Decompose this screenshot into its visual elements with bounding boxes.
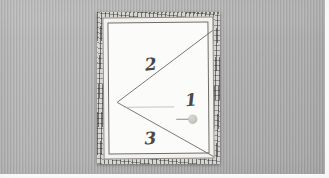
diagonal-line-lower (117, 102, 213, 158)
tack-marker (188, 115, 197, 124)
photograph: 2 1 3 (0, 0, 329, 178)
handwritten-number-3: 3 (144, 130, 157, 148)
picture-frame: 2 1 3 (97, 12, 220, 164)
handwritten-number-2: 2 (144, 55, 158, 73)
canvas-surface: 2 1 3 (115, 29, 215, 161)
frame-mat: 2 1 3 (102, 17, 214, 160)
canvas-line-drawing (115, 29, 215, 161)
handwritten-number-1: 1 (184, 91, 197, 109)
diagonal-line-upper (117, 31, 214, 103)
